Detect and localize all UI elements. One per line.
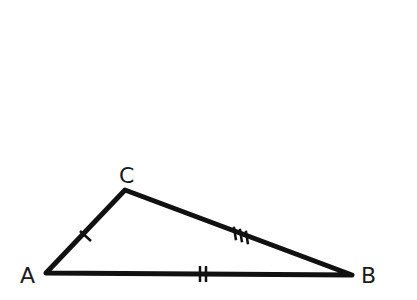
vertex-label-c: C — [119, 163, 134, 188]
triangle-abc — [46, 190, 352, 275]
vertex-label-b: B — [361, 263, 376, 288]
vertex-label-a: A — [20, 263, 35, 288]
triangle-diagram: A C B — [0, 0, 417, 300]
side-cb-tick-marks — [232, 227, 250, 244]
